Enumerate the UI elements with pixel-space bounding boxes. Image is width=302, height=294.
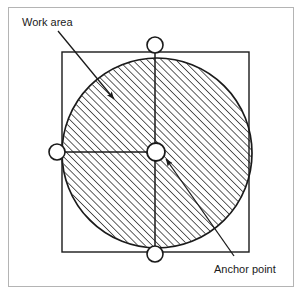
- diagram-canvas: Work area Anchor point: [0, 0, 302, 294]
- anchor-point-marker: [147, 143, 165, 161]
- joint-marker-bottom: [147, 246, 163, 262]
- work-area-diagram: Work area Anchor point: [0, 0, 302, 294]
- joint-marker-left: [49, 144, 65, 160]
- anchor-point-label: Anchor point: [214, 263, 276, 275]
- joint-marker-top: [147, 37, 163, 53]
- work-area-label: Work area: [22, 16, 73, 28]
